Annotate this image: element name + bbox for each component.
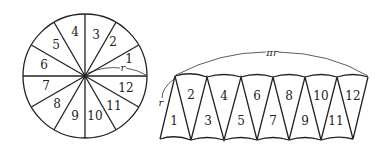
sector-label: 12	[345, 89, 360, 103]
sector-label: 10	[313, 89, 328, 103]
sector-label: 8	[53, 97, 61, 111]
radius-leader	[126, 68, 146, 75]
length-leader	[176, 52, 266, 75]
sector-label: 2	[109, 35, 117, 49]
sector-label: 4	[71, 25, 79, 39]
sector-label: 5	[52, 38, 60, 52]
sector-label: 6	[253, 89, 261, 103]
sector-label: 3	[204, 114, 212, 128]
sector-label: 4	[220, 89, 228, 103]
sector-label: 10	[87, 109, 102, 123]
sector-label: 11	[328, 114, 343, 128]
sector-label: 8	[285, 89, 293, 103]
sector-label: 2	[187, 88, 195, 102]
center-point	[83, 74, 87, 78]
diagram-canvas: r 1 2 3 4 5 6 7 8 9 10 11 12 πr r 2 4 6 …	[0, 0, 388, 153]
rearranged-strip: πr r 2 4 6 8 10 12 1 3 5 7 9 11	[159, 47, 368, 141]
sector-label: 1	[125, 52, 133, 66]
sectored-circle: r 1 2 3 4 5 6 7 8 9 10 11 12	[23, 14, 147, 138]
length-leader	[278, 52, 368, 76]
length-label: πr	[265, 47, 279, 58]
sector-label: 5	[237, 114, 245, 128]
sector-label: 12	[118, 81, 133, 95]
sector-label: 9	[71, 109, 79, 123]
top-arcs	[175, 74, 368, 77]
sector-label: 7	[42, 79, 50, 93]
sector-label: 3	[92, 28, 100, 42]
sector-label: 1	[170, 114, 178, 128]
height-label: r	[159, 97, 165, 108]
sector-label: 9	[301, 114, 309, 128]
sector-label: 11	[106, 99, 121, 113]
sector-label: 6	[40, 58, 48, 72]
sector-edges	[160, 76, 368, 140]
sector-label: 7	[269, 114, 277, 128]
